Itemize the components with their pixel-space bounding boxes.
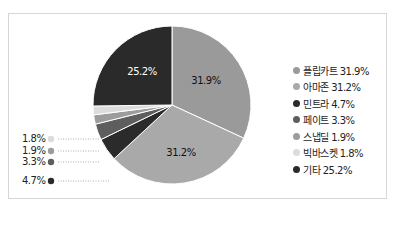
legend-item-myntra: 민트라 4.7% — [293, 95, 369, 112]
legend-item-paytm: 페이트 3.3% — [293, 112, 369, 129]
slice-label-flipkart: 31.9% — [191, 75, 220, 86]
callout-label-bigbasket: 1.8% — [22, 133, 45, 144]
legend-dot-icon — [293, 116, 300, 123]
legend-dot-icon — [293, 83, 300, 90]
legend-dot-icon — [293, 166, 300, 173]
callout-dot-icon — [48, 148, 54, 154]
callout-dot-icon — [48, 159, 54, 165]
legend-dot-icon — [293, 100, 300, 107]
legend-item-amazon: 아마존 31.2% — [293, 79, 369, 96]
callout-label-paytm: 3.3% — [22, 156, 45, 167]
callout-dot-icon — [48, 178, 54, 184]
callout-dot-icon — [48, 136, 54, 142]
legend-item-others: 기타 25.2% — [293, 161, 369, 178]
legend-dot-icon — [293, 67, 300, 74]
legend-item-bigbasket: 빅바스켓 1.8% — [293, 145, 369, 162]
legend-dot-icon — [293, 133, 300, 140]
legend-dot-icon — [293, 149, 300, 156]
legend-item-flipkart: 플립카트 31.9% — [293, 62, 369, 79]
chart-legend: 플립카트 31.9% 아마존 31.2% 민트라 4.7% 페이트 3.3% 스… — [293, 62, 369, 178]
slice-label-amazon: 31.2% — [166, 147, 195, 158]
callout-label-snapdeal: 1.9% — [22, 145, 45, 156]
legend-item-snapdeal: 스냅딜 1.9% — [293, 128, 369, 145]
slice-label-others: 25.2% — [127, 66, 156, 77]
callout-label-myntra: 4.7% — [22, 175, 45, 186]
